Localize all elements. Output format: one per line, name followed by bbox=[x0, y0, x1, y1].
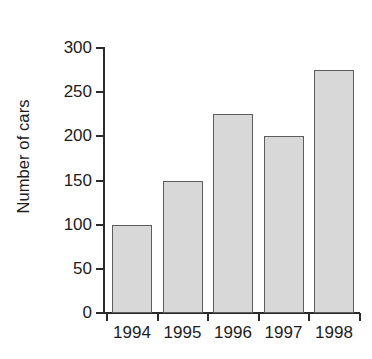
y-axis-title: Number of cars bbox=[0, 0, 46, 313]
x-axis-tick-mark bbox=[308, 313, 310, 321]
x-axis-tick-label: 1994 bbox=[107, 324, 157, 341]
y-axis-tick-label: 50 bbox=[73, 260, 92, 277]
bar-1996 bbox=[213, 114, 253, 313]
bar-chart-figure: Number of cars 050100150200250300 199419… bbox=[0, 0, 372, 359]
x-axis-tick-label: 1998 bbox=[309, 324, 359, 341]
bar-1995 bbox=[163, 181, 203, 314]
bar-1998 bbox=[314, 70, 354, 313]
plot-area bbox=[104, 48, 356, 313]
x-axis-tick-mark bbox=[359, 313, 361, 321]
x-axis-tick-mark bbox=[106, 313, 108, 321]
x-axis-tick-mark bbox=[157, 313, 159, 321]
x-axis-tick-mark bbox=[207, 313, 209, 321]
x-axis-tick-mark bbox=[258, 313, 260, 321]
x-axis-tick-label: 1995 bbox=[158, 324, 208, 341]
y-axis-tick-label: 300 bbox=[64, 39, 92, 56]
y-axis-tick-label: 0 bbox=[83, 304, 92, 321]
y-axis-tick-label: 250 bbox=[64, 83, 92, 100]
x-axis-tick-label: 1996 bbox=[208, 324, 258, 341]
x-axis-tick-label: 1997 bbox=[259, 324, 309, 341]
bar-1994 bbox=[112, 225, 152, 313]
y-axis-tick-label: 100 bbox=[64, 216, 92, 233]
y-axis-tick-label: 150 bbox=[64, 172, 92, 189]
y-axis-tick-label: 200 bbox=[64, 127, 92, 144]
y-axis-title-label: Number of cars bbox=[14, 99, 33, 213]
bar-1997 bbox=[264, 136, 304, 313]
